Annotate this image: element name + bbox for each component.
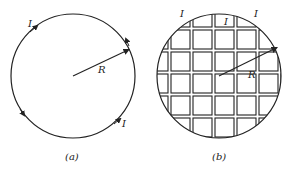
radius-label: R: [247, 69, 256, 80]
current-label-right: I: [253, 8, 259, 19]
figure-b: I I I R (b): [149, 8, 291, 162]
current-label-bottom: I: [121, 118, 127, 129]
arrow-icon: [20, 109, 24, 115]
radius-label: R: [97, 64, 106, 75]
current-label-left: I: [179, 8, 185, 19]
diagram-canvas: I I R (a) I I I R (b): [0, 0, 291, 171]
current-label-center: I: [223, 16, 229, 27]
figure-a: I I R (a): [11, 14, 135, 162]
grid-loops: [149, 8, 291, 137]
caption-a: (a): [65, 151, 79, 162]
current-label-top: I: [27, 18, 33, 29]
caption-b: (b): [212, 151, 226, 162]
